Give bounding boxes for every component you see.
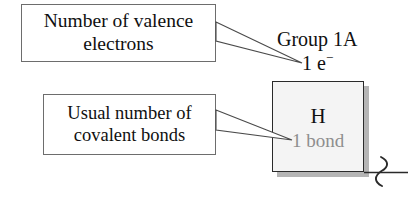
element-symbol: H bbox=[273, 104, 363, 129]
group-label: Group 1A bbox=[277, 28, 358, 51]
callout-valence-line-1: Number of valence bbox=[44, 10, 193, 33]
electron-count-value: 1 e bbox=[302, 52, 326, 74]
callout-box-covalent-bonds: Usual number of covalent bonds bbox=[43, 94, 216, 155]
element-bond-count: 1 bond bbox=[273, 130, 363, 152]
squiggle-bond-break-icon bbox=[376, 157, 387, 186]
callout-bonds-line-2: covalent bonds bbox=[74, 125, 186, 146]
electron-charge-superscript: − bbox=[326, 50, 333, 65]
element-tile-hydrogen: H 1 bond bbox=[272, 81, 364, 172]
valence-electron-count-label: 1 e− bbox=[302, 50, 333, 75]
callout-valence-line-2: electrons bbox=[83, 33, 153, 56]
chemistry-element-annotation-figure: Number of valence electrons Usual number… bbox=[0, 0, 408, 215]
callout-bonds-line-1: Usual number of bbox=[67, 103, 191, 124]
callout-box-valence-electrons: Number of valence electrons bbox=[21, 4, 216, 62]
